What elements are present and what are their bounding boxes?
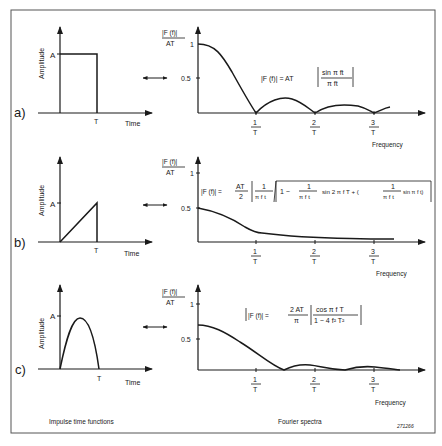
svg-text:T: T [312, 386, 317, 393]
caption-time-functions: Impulse time functions [49, 418, 114, 426]
fourier-diagram: a) A T Time Amplitude |F (f)| AT 1 0.5 [0, 0, 442, 446]
svg-text:2: 2 [312, 376, 316, 383]
formula: |F (f)| = AT 2 1 π f t 1 − 1 π f t sin 2… [201, 181, 431, 202]
svg-text:2: 2 [312, 248, 316, 255]
svg-text:T: T [253, 386, 258, 393]
svg-text:1: 1 [190, 170, 194, 177]
svg-text:T: T [371, 258, 376, 265]
svg-text:1: 1 [262, 183, 266, 190]
svg-text:1: 1 [190, 301, 194, 308]
time-plot: A T Time Amplitude [38, 27, 152, 127]
panel-b: b) A T Time Amplitude |F (f)| AT 1 0.5 [14, 157, 431, 278]
svg-text:1: 1 [253, 248, 257, 255]
time-plot: A T Time Amplitude [38, 285, 152, 386]
svg-text:3: 3 [371, 119, 375, 126]
spectrum-plot: |F (f)| AT 1 0.5 1T 2T 3T Frequency |F (… [162, 157, 431, 278]
svg-text:T: T [253, 258, 258, 265]
svg-text:π f t: π f t [299, 194, 310, 200]
amplitude-label: Amplitude [38, 318, 46, 349]
svg-text:1: 1 [307, 183, 311, 190]
svg-text:1: 1 [190, 41, 194, 48]
frequency-label: Frequency [376, 270, 407, 278]
formula: |F (f)| = 2 AT π cos π f T 1 − 4 f² T² [246, 305, 361, 325]
panel-c: c) A T Time Amplitude |F (f)| AT 1 0.5 [15, 285, 425, 407]
t-label: T [94, 118, 99, 125]
spectrum-plot: |F (f)| AT 1 0.5 1T 2T 3T Frequency |F (… [162, 27, 425, 149]
rectangular-pulse [60, 54, 97, 113]
panel-label: c) [15, 362, 26, 377]
svg-text:1 −: 1 − [280, 188, 290, 195]
svg-text:AT: AT [166, 169, 175, 176]
svg-text:T: T [253, 129, 258, 136]
svg-text:π f t: π f t [383, 194, 394, 200]
svg-text:1: 1 [391, 183, 395, 190]
svg-text:1: 1 [253, 376, 257, 383]
amplitude-label: Amplitude [38, 48, 46, 79]
svg-text:1: 1 [253, 119, 257, 126]
svg-text:T: T [312, 129, 317, 136]
svg-text:2: 2 [312, 119, 316, 126]
svg-text:sin 2 π f T + (: sin 2 π f T + ( [322, 188, 360, 195]
svg-text:sin π ft: sin π ft [322, 69, 344, 76]
svg-text:0.5: 0.5 [181, 75, 191, 82]
amplitude-label: Amplitude [38, 185, 46, 216]
figure-reference: 271266 [396, 423, 414, 429]
svg-text:π: π [294, 317, 299, 324]
svg-text:T: T [371, 386, 376, 393]
ylabel-denominator: AT [166, 40, 175, 47]
svg-text:1 − 4 f² T²: 1 − 4 f² T² [314, 317, 345, 324]
svg-text:|F (f)| =: |F (f)| = [248, 312, 269, 320]
frequency-label: Frequency [375, 399, 406, 407]
svg-text:T: T [312, 258, 317, 265]
svg-text:π f t: π f t [255, 194, 266, 200]
x-ticks: 1T 2T 3T [251, 111, 379, 136]
ramp-pulse [60, 203, 97, 242]
svg-text:|F (f)| =: |F (f)| = [201, 188, 222, 196]
t-label: T [94, 247, 99, 254]
panel-label: a) [14, 105, 26, 120]
time-plot: A T Time Amplitude [38, 157, 152, 257]
svg-text:3: 3 [371, 376, 375, 383]
panel-a: a) A T Time Amplitude |F (f)| AT 1 0.5 [14, 27, 425, 149]
svg-text:3: 3 [371, 248, 375, 255]
time-label: Time [125, 379, 140, 386]
spectrum-plot: |F (f)| AT 1 0.5 1T 2T 3T Frequency |F (… [162, 285, 425, 407]
svg-text:2 AT: 2 AT [290, 306, 305, 313]
ylabel-numerator: |F (f)| [162, 29, 178, 37]
frequency-label: Frequency [372, 141, 403, 149]
amp-label: A [50, 200, 56, 209]
t-label: T [97, 375, 102, 382]
svg-text:|F (f)|: |F (f)| [162, 288, 178, 296]
svg-text:AT: AT [166, 299, 175, 306]
svg-text:π ft: π ft [327, 80, 338, 87]
svg-text:AT: AT [236, 183, 245, 190]
svg-text:|F (f)| = AT: |F (f)| = AT [261, 75, 294, 83]
time-label: Time [124, 250, 139, 257]
svg-text:sin π f t): sin π f t) [403, 189, 423, 195]
x-ticks: 1T 2T 3T [251, 368, 379, 393]
time-label: Time [125, 120, 140, 127]
panel-label: b) [14, 235, 26, 250]
half-sine-pulse [60, 318, 99, 369]
amp-label: A [50, 312, 56, 321]
svg-text:|F (f)|: |F (f)| [162, 158, 178, 166]
svg-text:cos π f T: cos π f T [316, 306, 344, 313]
svg-text:0.5: 0.5 [181, 336, 191, 343]
svg-text:0.5: 0.5 [181, 205, 191, 212]
svg-text:2: 2 [239, 193, 243, 200]
sinc-curve [198, 44, 390, 113]
caption-fourier-spectra: Fourier spectra [278, 418, 322, 426]
x-ticks: 1T 2T 3T [251, 240, 379, 265]
ramp-spectrum-curve [198, 208, 394, 239]
amp-label: A [50, 51, 56, 60]
half-sine-spectrum-curve [198, 325, 400, 370]
svg-text:T: T [371, 129, 376, 136]
formula: |F (f)| = AT sin π ft π ft [261, 67, 353, 87]
